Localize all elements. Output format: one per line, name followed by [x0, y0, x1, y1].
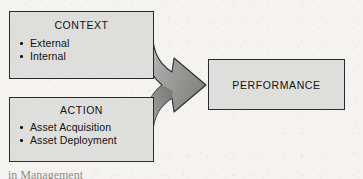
- bullet-dot-icon: [20, 139, 23, 142]
- bullet-dot-icon: [20, 55, 23, 58]
- bullet-dot-icon: [20, 42, 23, 45]
- node-context-bullet-list: External Internal: [19, 37, 153, 63]
- node-context: CONTEXT External Internal: [9, 11, 154, 79]
- node-action-title: ACTION: [10, 104, 153, 116]
- node-action: ACTION Asset Acquisition Asset Deploymen…: [9, 97, 154, 162]
- figure-canvas: CONTEXT External Internal ACTION Asset A…: [0, 0, 363, 179]
- bullet-label: Asset Acquisition: [30, 121, 111, 133]
- node-context-title: CONTEXT: [10, 19, 153, 31]
- list-item: External: [19, 37, 153, 50]
- node-performance-title: PERFORMANCE: [209, 79, 344, 91]
- list-item: Asset Acquisition: [19, 121, 153, 134]
- node-action-bullet-list: Asset Acquisition Asset Deployment: [19, 121, 153, 147]
- bullet-dot-icon: [20, 126, 23, 129]
- bullet-label: Asset Deployment: [30, 134, 117, 146]
- list-item: Asset Deployment: [19, 134, 153, 147]
- node-performance: PERFORMANCE: [208, 59, 345, 110]
- list-item: Internal: [19, 50, 153, 63]
- bullet-label: External: [30, 37, 69, 49]
- clipped-caption-text: in Management: [8, 168, 158, 179]
- bullet-label: Internal: [30, 50, 66, 62]
